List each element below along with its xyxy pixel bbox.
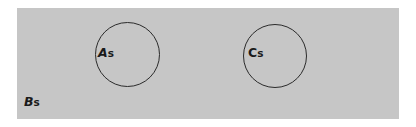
set-label-c: Cs (248, 44, 263, 60)
set-label-c-main: C (248, 45, 257, 60)
set-label-c-sub: s (257, 47, 263, 59)
diagram-canvas: As Cs Bs (0, 0, 416, 127)
set-label-b-sub: s (34, 96, 40, 108)
set-label-a-sub: s (108, 47, 114, 59)
set-label-b-main: B (24, 94, 34, 109)
universe-rectangle (17, 8, 399, 119)
set-label-b: Bs (24, 93, 40, 109)
set-label-a-main: A (98, 45, 108, 60)
set-label-a: As (98, 44, 114, 60)
